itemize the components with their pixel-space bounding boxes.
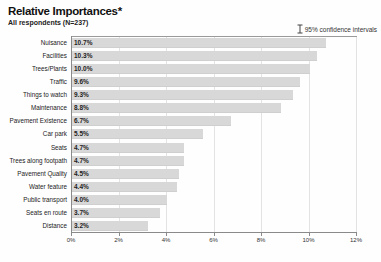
x-tick-label: 10% — [297, 237, 321, 243]
bar: 6.7% — [72, 116, 231, 126]
gridline-12% — [356, 37, 357, 232]
category-label: Maintenance — [0, 103, 67, 112]
bar-value-label: 9.3% — [72, 90, 293, 99]
bar: 9.6% — [72, 77, 300, 87]
bar-value-label: 9.6% — [72, 77, 300, 86]
chart-page: Relative Importances* All respondents (N… — [0, 0, 381, 262]
x-tick-label: 12% — [344, 237, 368, 243]
bar: 3.7% — [72, 208, 160, 218]
x-tick-mark — [166, 233, 167, 236]
bar-value-label: 10.3% — [72, 51, 317, 60]
bar-value-label: 10.7% — [72, 38, 326, 47]
bar: 3.2% — [72, 221, 148, 231]
bar: 10.0% — [72, 64, 310, 74]
x-tick-label: 0% — [59, 237, 83, 243]
category-label: Trees/Plants — [0, 64, 67, 73]
bar-value-label: 8.8% — [72, 103, 281, 112]
confidence-interval-legend: 95% confidence intervals — [297, 24, 377, 34]
x-tick-label: 6% — [202, 237, 226, 243]
category-label: Pavement Existence — [0, 116, 67, 125]
bar-value-label: 4.4% — [72, 182, 177, 191]
bar-value-label: 4.5% — [72, 169, 179, 178]
category-label: Trees along footpath — [0, 156, 67, 165]
bar: 10.3% — [72, 51, 317, 61]
error-bar-icon — [297, 24, 303, 34]
bar: 8.8% — [72, 103, 281, 113]
category-label: Water feature — [0, 182, 67, 191]
legend-label: 95% confidence intervals — [305, 26, 377, 33]
bar-value-label: 3.7% — [72, 208, 160, 217]
bar: 4.5% — [72, 169, 179, 179]
bar: 4.0% — [72, 195, 167, 205]
bar-value-label: 4.0% — [72, 195, 167, 204]
bar-value-label: 3.2% — [72, 221, 148, 230]
bar: 9.3% — [72, 90, 293, 100]
category-label: Distance — [0, 221, 67, 230]
bar-value-label: 5.5% — [72, 129, 203, 138]
bar-value-label: 6.7% — [72, 116, 231, 125]
x-tick-mark — [214, 233, 215, 236]
bar-value-label: 10.0% — [72, 64, 310, 73]
x-tick-mark — [119, 233, 120, 236]
bar: 4.7% — [72, 156, 184, 166]
category-label: Public transport — [0, 195, 67, 204]
category-label: Seats — [0, 143, 67, 152]
x-tick-label: 4% — [154, 237, 178, 243]
category-label: Traffic — [0, 77, 67, 86]
category-label: Things to watch — [0, 90, 67, 99]
bar: 4.7% — [72, 143, 184, 153]
chart-title: Relative Importances* — [8, 5, 122, 17]
x-tick-mark — [309, 233, 310, 236]
category-label: Nuisance — [0, 38, 67, 47]
x-tick-label: 8% — [249, 237, 273, 243]
category-label: Car park — [0, 129, 67, 138]
category-label: Facilities — [0, 51, 67, 60]
bar: 10.7% — [72, 38, 326, 48]
x-tick-mark — [356, 233, 357, 236]
bar: 5.5% — [72, 129, 203, 139]
category-label: Seats en route — [0, 208, 67, 217]
bar-value-label: 4.7% — [72, 143, 184, 152]
x-tick-mark — [71, 233, 72, 236]
x-tick-mark — [261, 233, 262, 236]
chart-subtitle: All respondents (N=237) — [8, 19, 88, 26]
bar-value-label: 4.7% — [72, 156, 184, 165]
x-tick-label: 2% — [107, 237, 131, 243]
category-label: Pavement Quality — [0, 169, 67, 178]
bar: 4.4% — [72, 182, 177, 192]
